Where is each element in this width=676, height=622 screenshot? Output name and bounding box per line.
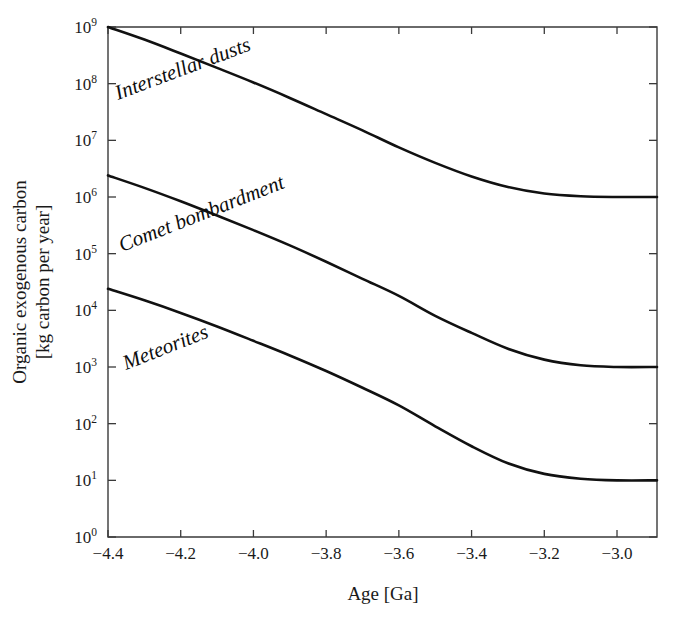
y-tick-label: 104 — [74, 299, 97, 320]
x-axis-ticks — [108, 27, 617, 537]
data-series-group — [108, 27, 657, 480]
x-axis-tick-labels: −4.4−4.2−4.0−3.8−3.6−3.4−3.2−3.0 — [93, 544, 633, 563]
y-tick-label: 101 — [74, 469, 97, 490]
plot-frame — [108, 27, 657, 537]
curve-label: Meteorites — [118, 319, 211, 375]
curve-label: Interstellar dusts — [110, 32, 253, 105]
x-tick-label: −3.6 — [383, 544, 414, 563]
y-tick-label: 102 — [74, 413, 97, 434]
y-axis-title-line1: Organic exogenous carbon — [9, 180, 30, 384]
x-tick-label: −4.0 — [238, 544, 269, 563]
curve-label-group: Interstellar dustsComet bombardmentMeteo… — [110, 32, 288, 375]
x-tick-label: −3.4 — [456, 544, 487, 563]
y-axis-ticks — [108, 27, 657, 537]
chart-page: −4.4−4.2−4.0−3.8−3.6−3.4−3.2−3.0 1001011… — [0, 0, 676, 622]
y-axis-title-line2: [kg carbon per year] — [32, 205, 53, 360]
curve-label: Comet bombardment — [115, 169, 289, 256]
exogenous-carbon-chart: −4.4−4.2−4.0−3.8−3.6−3.4−3.2−3.0 1001011… — [0, 0, 676, 622]
x-tick-label: −3.8 — [311, 544, 342, 563]
x-axis-title: Age [Ga] — [347, 583, 418, 604]
series-line — [108, 289, 657, 481]
x-tick-label: −3.0 — [602, 544, 633, 563]
x-tick-label: −4.2 — [165, 544, 196, 563]
y-tick-label: 103 — [74, 356, 97, 377]
y-tick-label: 109 — [74, 16, 97, 37]
y-tick-label: 106 — [74, 186, 97, 207]
x-tick-label: −3.2 — [529, 544, 560, 563]
y-tick-label: 108 — [74, 73, 97, 94]
y-tick-label: 105 — [74, 243, 97, 264]
x-tick-label: −4.4 — [93, 544, 124, 563]
y-tick-label: 107 — [74, 129, 97, 150]
y-axis-tick-labels: 100101102103104105106107108109 — [74, 16, 97, 547]
